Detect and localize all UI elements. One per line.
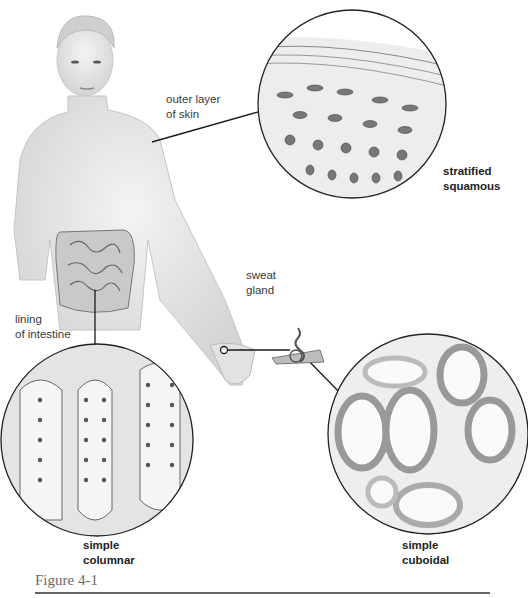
figure-caption: Figure 4-1 xyxy=(35,572,98,589)
label-line: of skin xyxy=(166,107,220,122)
label-line: gland xyxy=(246,283,276,298)
label-outer-layer-of-skin: outer layer of skin xyxy=(166,92,220,122)
label-line: lining xyxy=(15,312,71,327)
label-line: simple xyxy=(83,538,135,553)
simple-cuboidal-magnification xyxy=(328,334,528,534)
label-simple-columnar: simple columnar xyxy=(83,538,135,568)
label-line: squamous xyxy=(443,179,501,194)
label-line: of intestine xyxy=(15,327,71,342)
label-sweat-gland: sweat gland xyxy=(246,268,276,298)
caption-rule xyxy=(35,592,490,594)
label-lining-of-intestine: lining of intestine xyxy=(15,312,71,342)
label-simple-cuboidal: simple cuboidal xyxy=(402,538,449,568)
figure-illustration xyxy=(0,0,528,598)
label-line: stratified xyxy=(443,164,501,179)
simple-columnar-magnification xyxy=(1,344,193,536)
label-line: outer layer xyxy=(166,92,220,107)
label-line: sweat xyxy=(246,268,276,283)
label-line: cuboidal xyxy=(402,553,449,568)
sweat-gland-icon xyxy=(272,328,324,364)
label-line: columnar xyxy=(83,553,135,568)
label-line: simple xyxy=(402,538,449,553)
label-stratified-squamous: stratified squamous xyxy=(443,164,501,194)
stratified-squamous-magnification xyxy=(250,0,455,198)
